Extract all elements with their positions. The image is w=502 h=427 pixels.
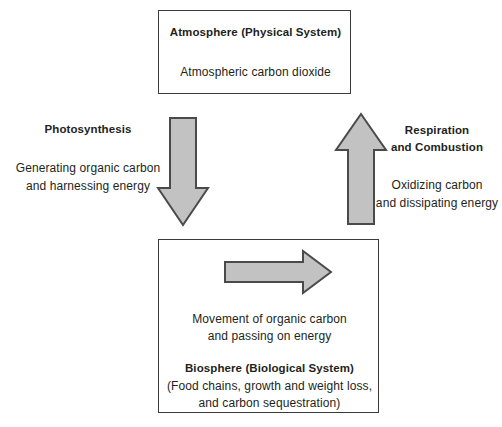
respiration-heading-line2: and Combustion — [391, 142, 483, 154]
biosphere-arrow-caption-line2: and passing on energy — [208, 330, 332, 342]
carbon-cycle-diagram: Atmosphere (Physical System) Atmospheric… — [0, 0, 502, 427]
photosynthesis-line2: and harnessing energy — [26, 180, 150, 192]
respiration-heading-line1: Respiration — [405, 125, 469, 137]
biosphere-detail-line2: and carbon sequestration) — [199, 397, 341, 409]
respiration-line2: and dissipating energy — [376, 197, 498, 209]
atmosphere-box: Atmosphere (Physical System) Atmospheric… — [158, 10, 351, 94]
biosphere-arrow-caption-line1: Movement of organic carbon — [192, 313, 347, 325]
respiration-line1: Oxidizing carbon — [392, 179, 483, 191]
right-arrow-icon — [223, 249, 333, 295]
photosynthesis-heading: Photosynthesis — [44, 124, 131, 136]
photosynthesis-line1: Generating organic carbon — [16, 162, 161, 174]
atmosphere-description: Atmospheric carbon dioxide — [180, 66, 331, 78]
biosphere-heading: Biosphere (Biological System) — [185, 363, 354, 375]
down-arrow-icon — [156, 116, 210, 228]
biosphere-detail-line1: (Food chains, growth and weight loss, — [167, 380, 372, 392]
atmosphere-heading: Atmosphere (Physical System) — [170, 27, 342, 39]
